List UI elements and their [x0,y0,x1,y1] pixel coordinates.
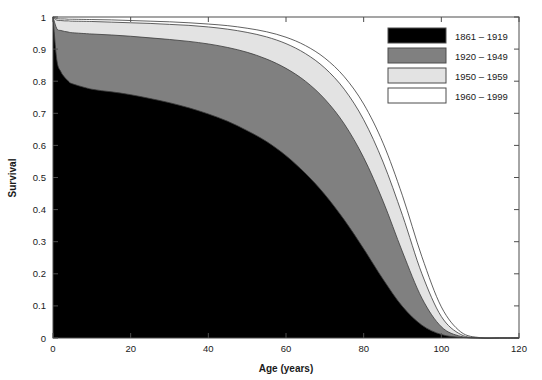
y-tick-label: 0.6 [33,140,46,151]
y-tick-label: 0.1 [33,300,46,311]
y-tick-label: 0 [41,333,46,344]
legend-label: 1950 – 1959 [455,71,508,82]
y-tick-label: 1 [41,12,46,23]
legend-swatch [388,68,446,83]
legend-swatch [388,88,446,103]
x-tick-label: 60 [281,343,292,354]
survival-bands-group [53,17,519,338]
survival-chart-figure: 020406080100120 00.10.20.30.40.50.60.70.… [0,0,542,380]
y-tick-label: 0.9 [33,44,46,55]
legend-swatch [388,48,446,63]
x-tick-label: 100 [433,343,449,354]
legend-swatch [388,28,446,43]
y-tick-label: 0.7 [33,108,46,119]
y-tick-label: 0.8 [33,76,46,87]
x-tick-label: 20 [125,343,136,354]
x-tick-label: 120 [511,343,527,354]
x-tick-label: 0 [50,343,55,354]
y-tick-label: 0.5 [33,172,46,183]
y-tick-label: 0.4 [33,204,46,215]
y-axis-title: Survival [7,158,18,197]
y-tick-label: 0.2 [33,268,46,279]
x-axis-title: Age (years) [259,363,313,374]
legend-label: 1960 – 1999 [455,91,508,102]
x-tick-label: 40 [203,343,214,354]
chart-canvas: 020406080100120 00.10.20.30.40.50.60.70.… [0,0,542,380]
legend: 1861 – 19191920 – 19491950 – 19591960 – … [388,28,508,103]
legend-label: 1861 – 1919 [455,31,508,42]
legend-label: 1920 – 1949 [455,51,508,62]
x-tick-label: 80 [358,343,369,354]
y-tick-label: 0.3 [33,236,46,247]
